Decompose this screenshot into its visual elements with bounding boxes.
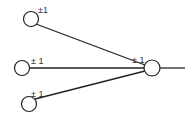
input-2-label: ± 1 — [31, 56, 43, 66]
edge-input-3-to-output — [35, 71, 145, 99]
input-3-label: ± 1 — [31, 89, 43, 99]
output-label: ± 1 — [132, 55, 144, 65]
input-node-2 — [15, 61, 30, 76]
output-node — [144, 60, 160, 76]
edge-input-1-to-output — [36, 24, 145, 65]
input-node-1 — [24, 12, 39, 27]
input-1-label: ±1 — [38, 5, 48, 15]
network-diagram: ±1 ± 1 ± 1 ± 1 — [0, 0, 196, 122]
